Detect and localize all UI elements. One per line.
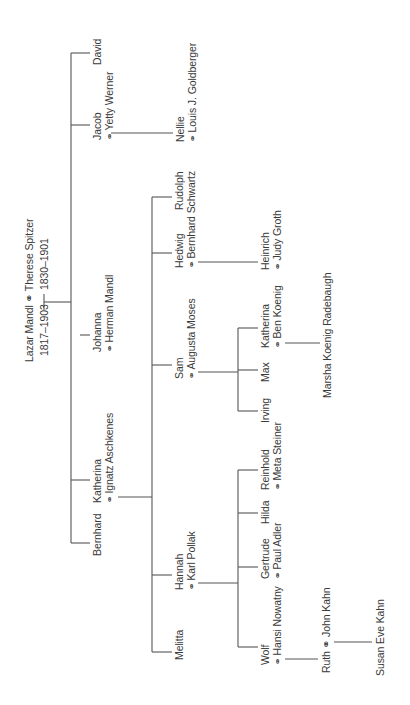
marriage-icon: ⚭: [187, 583, 197, 590]
marriage-icon: ⚭: [105, 345, 115, 352]
marriage-icon: ⚭: [188, 135, 198, 142]
marriage-icon: ⚭: [273, 341, 283, 348]
marriage-icon: ⚭: [105, 133, 115, 140]
marriage-icon: ⚭: [273, 263, 283, 270]
marriage-icon: ⚭: [105, 496, 115, 503]
tree-connectors: [0, 0, 410, 705]
marriage-icon: ⚭: [187, 372, 197, 379]
root-couple-label: Lazar Mandl ⚭ Therese Spitzer: [23, 219, 35, 362]
marriage-icon: ⚭: [273, 483, 283, 490]
marriage-icon: ⚭: [273, 658, 283, 665]
marriage-icon: ⚭: [273, 572, 283, 579]
marriage-icon: ⚭: [187, 261, 197, 268]
